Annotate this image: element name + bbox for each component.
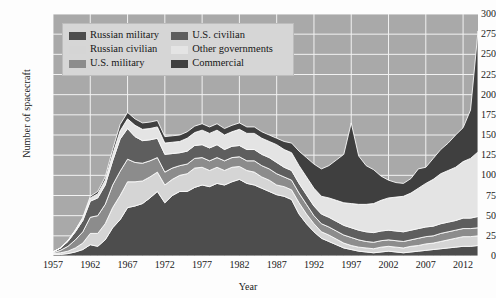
legend-swatch-commercial (171, 56, 192, 70)
legend-label-russian-civilian: Russian civilian (90, 42, 171, 56)
x-tick-2012: 2012 (441, 259, 485, 270)
legend-swatch-russian-military (69, 28, 90, 42)
legend-label-russian-military: Russian military (90, 28, 171, 42)
legend-table: Russian militaryU.S. civilianRussian civ… (69, 28, 285, 70)
chart-legend: Russian militaryU.S. civilianRussian civ… (62, 23, 294, 76)
legend-label-commercial: Commercial (192, 56, 285, 70)
legend-label-u-s-civilian: U.S. civilian (192, 28, 285, 42)
legend-label-u-s-military: U.S. military (90, 56, 171, 70)
x-axis-title: Year (0, 281, 496, 292)
legend-swatch-other-governments (171, 42, 192, 56)
legend-label-other-governments: Other governments (192, 42, 285, 56)
legend-swatch-russian-civilian (69, 42, 90, 56)
legend-swatch-u-s-military (69, 56, 90, 70)
legend-row: Russian militaryU.S. civilian (69, 28, 285, 42)
legend-swatch-u-s-civilian (171, 28, 192, 42)
chart-figure: Number of spacecraft 0255075100125150175… (0, 0, 496, 298)
legend-row: U.S. militaryCommercial (69, 56, 285, 70)
legend-row: Russian civilianOther governments (69, 42, 285, 56)
